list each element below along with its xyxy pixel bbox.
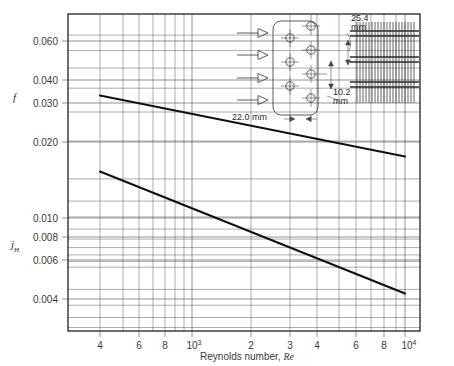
xtick-text-1: 6	[136, 340, 142, 351]
data-line-f	[100, 96, 405, 157]
xtick-sup-3: 3	[198, 339, 202, 346]
inset-dim-254: 25.4 mm	[351, 14, 369, 33]
chart-figure: 0.060 0.040 0.030 0.020 0.010 0.008 0.00…	[0, 0, 454, 366]
xtick-label-9: 104	[401, 339, 416, 351]
xtick-text-7: 6	[353, 340, 359, 351]
x-axis-ticks	[100, 331, 405, 337]
xtick-text-3: 10	[186, 340, 197, 351]
xtick-label-5: 3	[287, 339, 293, 351]
x-axis-title-symbol: Re	[283, 351, 294, 362]
ytick-label-6: 0.006	[4, 255, 58, 266]
plot-canvas	[0, 0, 454, 366]
x-axis-title: Reynolds number, Re	[200, 351, 294, 362]
grid-horizontal	[68, 35, 420, 327]
xtick-label-1: 6	[136, 339, 142, 351]
dim-arrow-220	[284, 115, 317, 122]
xtick-text-0: 4	[97, 340, 103, 351]
xtick-text-4: 2	[248, 340, 254, 351]
ytick-label-7: 0.004	[4, 294, 58, 305]
xtick-sup-9: 4	[413, 339, 417, 346]
inset-dim-102-unit: mm	[333, 96, 348, 106]
flow-arrow-icon	[237, 29, 268, 105]
grid-horizontal-major	[68, 41, 420, 299]
xtick-label-7: 6	[353, 339, 359, 351]
ytick-label-0: 0.060	[4, 36, 58, 47]
xtick-text-5: 3	[287, 340, 293, 351]
inset-schematic	[237, 15, 419, 122]
ytick-label-1: 0.040	[4, 75, 58, 86]
xtick-label-8: 8	[381, 339, 387, 351]
ytick-label-3: 0.020	[4, 137, 58, 148]
x-axis-title-text: Reynolds number,	[200, 351, 283, 362]
xtick-label-2: 8	[162, 339, 168, 351]
inset-dim-254-unit: mm	[351, 22, 366, 32]
xtick-text-8: 8	[381, 340, 387, 351]
data-line-jh	[100, 172, 405, 294]
series-symbol-f: f	[13, 91, 16, 103]
y-axis-ticks	[62, 41, 68, 299]
inset-dim-220: 22.0 mm	[232, 113, 267, 122]
series-symbol-f-text: f	[13, 91, 16, 103]
series-symbol-jh: jH	[11, 238, 19, 253]
fin-pack	[350, 22, 419, 103]
dim-arrow-254	[346, 40, 351, 65]
xtick-label-3: 103	[186, 339, 201, 351]
xtick-text-2: 8	[162, 340, 168, 351]
xtick-text-6: 4	[314, 340, 320, 351]
series-symbol-jh-sub: H	[14, 246, 19, 254]
xtick-label-6: 4	[314, 339, 320, 351]
tube-array	[281, 15, 327, 107]
xtick-label-0: 4	[97, 339, 103, 351]
xtick-label-4: 2	[248, 339, 254, 351]
ytick-label-4: 0.010	[4, 213, 58, 224]
dim-arrow-102	[329, 61, 334, 89]
inset-dim-102: 10.2 mm	[333, 88, 351, 107]
xtick-text-9: 10	[401, 340, 412, 351]
